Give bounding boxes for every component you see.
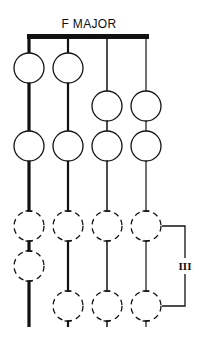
nut-bar	[27, 34, 149, 39]
circle-icon	[131, 131, 161, 161]
notes-group	[14, 53, 161, 321]
dashed-circle-icon	[92, 291, 122, 321]
bracket-label: III	[179, 260, 192, 272]
dashed-circle-icon	[131, 291, 161, 321]
finger-position	[53, 53, 83, 83]
optional-finger-position	[92, 211, 122, 241]
circle-icon	[131, 91, 161, 121]
circle-icon	[53, 131, 83, 161]
dashed-circle-icon	[92, 211, 122, 241]
finger-position	[92, 131, 122, 161]
circle-icon	[92, 131, 122, 161]
strings-group	[29, 34, 146, 327]
dashed-circle-icon	[14, 211, 44, 241]
optional-finger-position	[14, 251, 44, 281]
f-major-fingering-diagram: F MAJOR III	[0, 0, 199, 348]
dashed-circle-icon	[53, 291, 83, 321]
finger-position	[131, 91, 161, 121]
circle-icon	[14, 131, 44, 161]
dashed-circle-icon	[14, 251, 44, 281]
circle-icon	[53, 53, 83, 83]
optional-finger-position	[53, 211, 83, 241]
optional-finger-position	[131, 211, 161, 241]
bracket-bottom	[162, 274, 185, 306]
dashed-circle-icon	[53, 211, 83, 241]
finger-position	[131, 131, 161, 161]
dashed-circle-icon	[131, 211, 161, 241]
diagram-title: F MAJOR	[62, 17, 117, 31]
finger-position	[14, 53, 44, 83]
circle-icon	[14, 53, 44, 83]
finger-position	[92, 91, 122, 121]
finger-position	[53, 131, 83, 161]
optional-finger-position	[92, 291, 122, 321]
optional-finger-position	[53, 291, 83, 321]
finger-position	[14, 131, 44, 161]
bracket-top	[162, 226, 185, 258]
optional-finger-position	[14, 211, 44, 241]
position-bracket: III	[162, 226, 191, 306]
optional-finger-position	[131, 291, 161, 321]
circle-icon	[92, 91, 122, 121]
